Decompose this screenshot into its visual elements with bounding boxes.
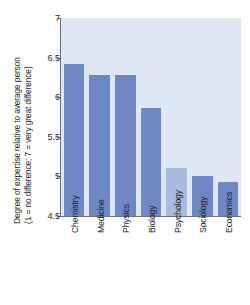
bar-biology (141, 108, 162, 217)
x-tick-label-physics: Physics (121, 219, 135, 229)
x-tick-label-biology: Biology (147, 219, 161, 229)
x-tick-label-psychology: Psychology (173, 219, 187, 229)
y-axis-title-line-2: (1 = no difference; 7 = very great diffe… (23, 66, 33, 224)
y-axis-title-line-1: Degree of expertise relative to average … (12, 57, 22, 224)
x-axis-category-labels: ChemistryMedicinePhysicsBiologyPsycholog… (61, 219, 243, 303)
x-tick-label-text: Chemistry (70, 219, 80, 233)
x-tick-label-chemistry: Chemistry (70, 219, 84, 229)
x-tick-label-economics: Economics (224, 219, 238, 229)
bar-chart: Degree of expertise relative to average … (0, 0, 250, 305)
y-axis-title: Degree of expertise relative to average … (0, 0, 40, 230)
x-tick-label-medicine: Medicine (96, 219, 110, 229)
x-tick-label-sociology: Sociology (198, 219, 212, 229)
x-tick-label-text: Sociology (198, 219, 208, 233)
x-tick-label-text: Psychology (173, 219, 183, 233)
bar-medicine (89, 75, 110, 216)
bar-physics (115, 75, 136, 216)
bar-chemistry (64, 64, 85, 216)
x-tick-label-text: Economics (224, 219, 234, 233)
x-tick-label-text: Physics (121, 219, 131, 233)
x-tick-label-text: Medicine (96, 219, 106, 233)
plot-area (61, 18, 241, 216)
x-tick-label-text: Biology (147, 219, 157, 233)
